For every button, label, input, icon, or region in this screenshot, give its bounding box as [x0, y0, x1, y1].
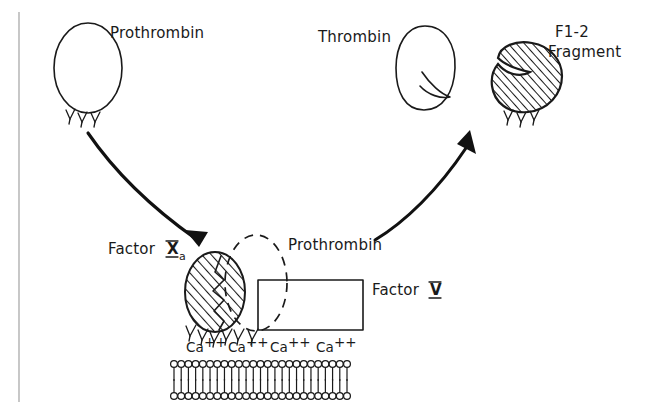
lipid-head [264, 361, 271, 368]
phospholipid-bilayer [171, 361, 351, 400]
lipid-head [221, 393, 228, 400]
lipid-head [192, 393, 199, 400]
lipid-head [178, 361, 185, 368]
calcium-ion-3: Ca++ [270, 334, 311, 355]
calcium-symbol: Ca [186, 339, 204, 355]
lipid-head [178, 393, 185, 400]
lipid-head [214, 361, 221, 368]
lipid-head [272, 393, 279, 400]
lipid-head [192, 361, 199, 368]
lipid-head [344, 361, 351, 368]
lipid-head [185, 393, 192, 400]
factor-v-numeral: V [430, 281, 442, 299]
lipid-head [221, 361, 228, 368]
lipid-head [336, 361, 343, 368]
lipid-head [228, 361, 235, 368]
lipid-head [344, 393, 351, 400]
lipid-head [322, 361, 329, 368]
lipid-head [235, 361, 242, 368]
lipid-head [257, 361, 264, 368]
outer-leaflet [171, 361, 351, 381]
lipid-head [300, 361, 307, 368]
lipid-head [250, 393, 257, 400]
lipid-head [250, 361, 257, 368]
calcium-symbol: Ca [270, 339, 288, 355]
lipid-head [214, 393, 221, 400]
lipid-head [279, 361, 286, 368]
lipid-head [171, 393, 178, 400]
lipid-head [286, 361, 293, 368]
lipid-head [228, 393, 235, 400]
factor-v-word: Factor [372, 281, 420, 299]
lipid-head [315, 361, 322, 368]
lipid-head [199, 393, 206, 400]
lipid-head [286, 393, 293, 400]
lipid-head [199, 361, 206, 368]
lipid-head [329, 361, 336, 368]
calcium-charge: ++ [246, 334, 269, 350]
lipid-head [185, 361, 192, 368]
lipid-head [207, 393, 214, 400]
lipid-head [322, 393, 329, 400]
prothrombin-to-complex-arrowhead [185, 230, 208, 247]
prothrombin-center-label: Prothrombin [288, 236, 382, 254]
lipid-head [336, 393, 343, 400]
f1-2-fragment-label-line2: Fragment [548, 43, 621, 61]
calcium-ion-1: Ca++ [186, 334, 227, 355]
lipid-head [257, 393, 264, 400]
lipid-head [243, 393, 250, 400]
lipid-head [279, 393, 286, 400]
factor-v-rectangle [258, 280, 363, 330]
inner-leaflet [171, 380, 351, 400]
factor-xa-subscript: a [179, 250, 186, 263]
lipid-head [308, 361, 315, 368]
thrombin-notch [420, 72, 450, 98]
calcium-charge: ++ [334, 334, 357, 350]
calcium-charge: ++ [288, 334, 311, 350]
lipid-head [264, 393, 271, 400]
calcium-symbol: Ca [316, 339, 334, 355]
thrombin-oval-group [396, 26, 455, 110]
factor-xa-ellipse-group [185, 252, 245, 347]
factor-xa-word: Factor [108, 240, 156, 258]
lipid-head [308, 393, 315, 400]
complex-to-products-arrow [375, 130, 476, 240]
diagram-canvas: Prothrombin Thrombin F1-2 Fragment [0, 0, 650, 419]
calcium-charge: ++ [204, 334, 227, 350]
prothrombin-top-label: Prothrombin [110, 24, 204, 42]
lipid-head [171, 361, 178, 368]
factor-v-group: Factor V [258, 280, 442, 330]
lipid-head [272, 361, 279, 368]
calcium-ion-2: Ca++ [228, 334, 269, 355]
lipid-head [207, 361, 214, 368]
calcium-ion-labels: Ca++Ca++Ca++Ca++ [186, 334, 357, 355]
prothrombinase-diagram: Prothrombin Thrombin F1-2 Fragment [0, 0, 650, 419]
lipid-head [315, 393, 322, 400]
lipid-head [293, 361, 300, 368]
calcium-ion-4: Ca++ [316, 334, 357, 355]
lipid-head [300, 393, 307, 400]
factor-xa-numeral: X [167, 240, 179, 258]
lipid-head [293, 393, 300, 400]
lipid-head [235, 393, 242, 400]
lipid-head [329, 393, 336, 400]
complex-to-products-arrowhead [457, 130, 476, 154]
factor-xa-label-group: Factor X a [108, 240, 186, 263]
calcium-symbol: Ca [228, 339, 246, 355]
thrombin-label: Thrombin [317, 28, 391, 46]
lipid-head [243, 361, 250, 368]
f1-2-fragment-label-line1: F1-2 [555, 23, 589, 41]
prothrombin-to-complex-arrow [88, 133, 208, 247]
